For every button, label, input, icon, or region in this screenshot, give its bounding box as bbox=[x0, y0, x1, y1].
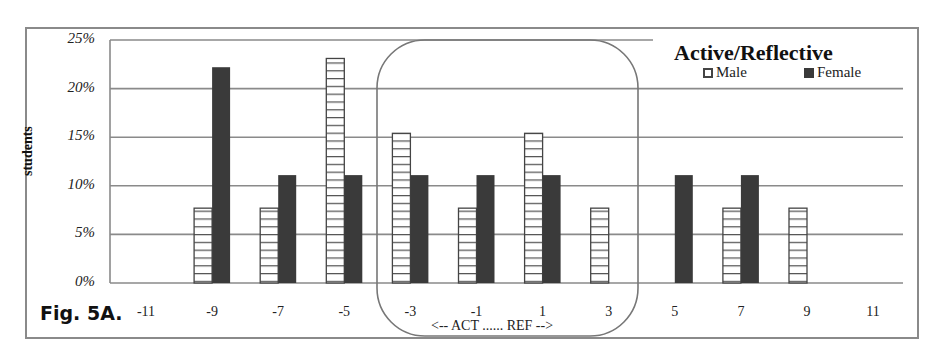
bar-male bbox=[789, 208, 807, 283]
legend-item-female: Female bbox=[804, 64, 861, 81]
x-tick-label: 11 bbox=[853, 304, 893, 320]
x-tick-label: 3 bbox=[589, 304, 629, 320]
bar-male bbox=[392, 133, 410, 283]
y-axis-label: students bbox=[20, 126, 36, 176]
bar-female bbox=[543, 175, 561, 283]
x-tick-label: 9 bbox=[787, 304, 827, 320]
y-tick-label: 5% bbox=[45, 224, 95, 241]
bar-male bbox=[194, 208, 212, 283]
bar-female bbox=[477, 175, 495, 283]
y-tick-label: 15% bbox=[45, 127, 95, 144]
y-tick-label: 20% bbox=[45, 79, 95, 96]
bars bbox=[194, 58, 807, 283]
bar-female bbox=[278, 175, 296, 283]
x-tick-label: -9 bbox=[192, 304, 232, 320]
y-tick-label: 0% bbox=[45, 273, 95, 290]
legend-label-male: Male bbox=[716, 64, 747, 81]
bar-male bbox=[326, 58, 344, 283]
bar-male bbox=[723, 208, 741, 283]
female-swatch-icon bbox=[804, 68, 814, 78]
bar-female bbox=[212, 67, 230, 283]
x-tick-label: -11 bbox=[126, 304, 166, 320]
bar-female bbox=[410, 175, 428, 283]
x-tick-label: 5 bbox=[655, 304, 695, 320]
y-tick-label: 10% bbox=[45, 176, 95, 193]
legend-label-female: Female bbox=[817, 64, 861, 81]
x-tick-label: -7 bbox=[258, 304, 298, 320]
x-tick-label: -3 bbox=[390, 304, 430, 320]
bar-female bbox=[344, 175, 362, 283]
chart-title: Active/Reflective bbox=[674, 40, 833, 66]
bar-male bbox=[260, 208, 278, 283]
bar-female bbox=[741, 175, 759, 283]
x-tick-label: 7 bbox=[721, 304, 761, 320]
figure-label: Fig. 5A. bbox=[40, 302, 122, 324]
act-ref-annotation: <-- ACT ...... REF --> bbox=[431, 318, 553, 334]
bar-female bbox=[675, 175, 693, 283]
bar-male bbox=[591, 208, 609, 283]
legend-item-male: Male bbox=[703, 64, 747, 81]
male-swatch-icon bbox=[703, 68, 713, 78]
bar-male bbox=[459, 208, 477, 283]
bar-male bbox=[525, 133, 543, 283]
y-tick-label: 25% bbox=[45, 30, 95, 47]
x-tick-label: -5 bbox=[324, 304, 364, 320]
